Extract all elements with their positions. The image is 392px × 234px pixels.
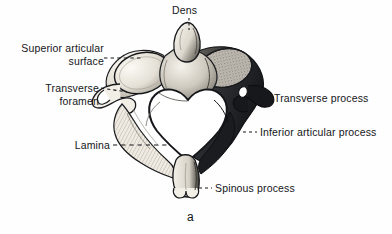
label-superior-articular-surface-line2: surface [69,55,104,67]
label-spinous-process: Spinous process [215,182,295,195]
label-transverse-process: Transverse process [274,92,369,105]
vertebra-illustration [0,0,392,234]
label-superior-articular-surface: Superior articular surface [0,42,104,67]
label-dens: Dens [172,4,197,17]
vertebra-bone-mass [92,22,274,198]
figure-caption: a [187,210,194,224]
label-inferior-articular-process: Inferior articular process [260,126,377,139]
dens [174,22,200,62]
label-transverse-foramen-line2: foramen [59,95,99,107]
label-superior-articular-surface-line1: Superior articular [21,42,104,54]
label-lamina: Lamina [0,139,110,152]
label-transverse-foramen-line1: Transverse [45,82,99,94]
label-transverse-foramen: Transverse foramen [0,82,99,107]
anatomical-figure: Superior articular surface Transverse fo… [0,0,392,234]
